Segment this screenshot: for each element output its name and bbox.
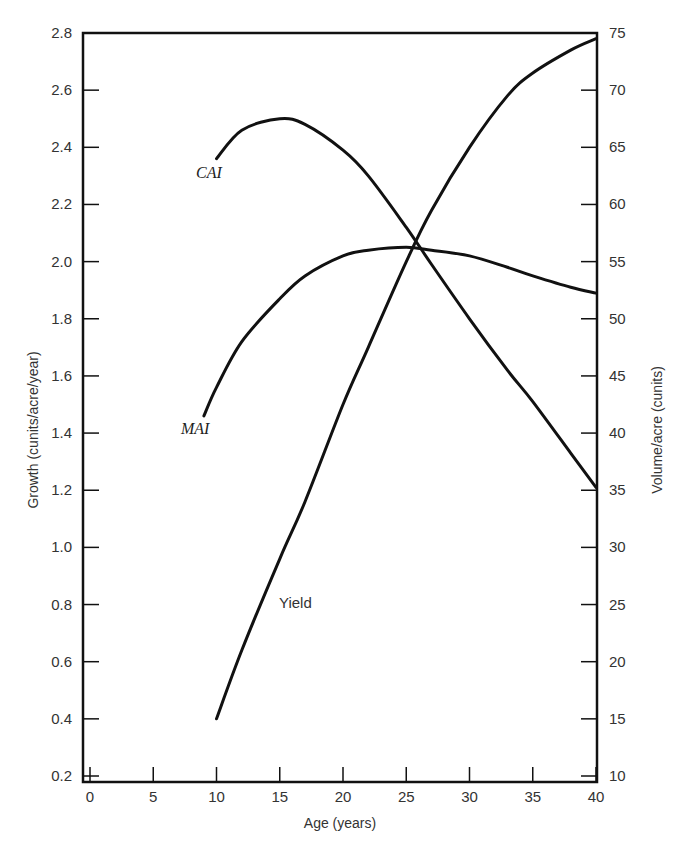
right-y-axis-title: Volume/acre (cunits) [649, 366, 665, 494]
y2-tick-label: 35 [609, 481, 626, 498]
y-tick-label: 2.8 [51, 24, 72, 41]
y-tick-label: 2.6 [51, 81, 72, 98]
y2-tick-label: 40 [609, 424, 626, 441]
x-tick-label: 10 [208, 788, 225, 805]
x-axis-title: Age (years) [304, 815, 376, 831]
y-tick-label: 1.2 [51, 481, 72, 498]
y2-tick-label: 75 [609, 24, 626, 41]
cai-label: CAI [196, 164, 222, 181]
right-y-axis-ticks: 1015202530354045505560657075 [581, 24, 626, 784]
y-tick-label: 2.0 [51, 253, 72, 270]
y-tick-label: 1.0 [51, 538, 72, 555]
x-tick-label: 15 [271, 788, 288, 805]
y2-tick-label: 65 [609, 138, 626, 155]
y-tick-label: 0.4 [51, 710, 72, 727]
y2-tick-label: 70 [609, 81, 626, 98]
y-tick-label: 2.4 [51, 138, 72, 155]
y2-tick-label: 60 [609, 195, 626, 212]
cai-curve [217, 118, 597, 487]
x-tick-label: 0 [86, 788, 94, 805]
y-tick-label: 0.2 [51, 767, 72, 784]
y-tick-label: 0.8 [51, 596, 72, 613]
y2-tick-label: 15 [609, 710, 626, 727]
y-tick-label: 1.8 [51, 310, 72, 327]
y2-tick-label: 30 [609, 538, 626, 555]
y2-tick-label: 25 [609, 596, 626, 613]
y-tick-label: 1.6 [51, 367, 72, 384]
x-tick-label: 35 [524, 788, 541, 805]
curves [204, 39, 596, 719]
y2-tick-label: 10 [609, 767, 626, 784]
x-tick-label: 5 [149, 788, 157, 805]
mai-label: MAI [180, 420, 210, 437]
y2-tick-label: 45 [609, 367, 626, 384]
y2-tick-label: 50 [609, 310, 626, 327]
x-tick-label: 20 [335, 788, 352, 805]
y-tick-label: 2.2 [51, 195, 72, 212]
left-y-axis-ticks: 0.20.40.60.81.01.21.41.61.82.02.22.42.62… [51, 24, 99, 784]
x-tick-label: 25 [398, 788, 415, 805]
x-tick-label: 40 [588, 788, 605, 805]
y2-tick-label: 55 [609, 253, 626, 270]
left-y-axis-title: Growth (cunits/acre/year) [25, 351, 41, 508]
y2-tick-label: 20 [609, 653, 626, 670]
y-tick-label: 0.6 [51, 653, 72, 670]
yield-label: Yield [279, 594, 312, 611]
plot-frame [83, 33, 597, 782]
x-tick-label: 30 [461, 788, 478, 805]
y-tick-label: 1.4 [51, 424, 72, 441]
x-axis-ticks: 0510152025303540 [86, 767, 605, 805]
yield-curve [217, 39, 597, 719]
growth-yield-chart: 0510152025303540 0.20.40.60.81.01.21.41.… [0, 0, 685, 847]
